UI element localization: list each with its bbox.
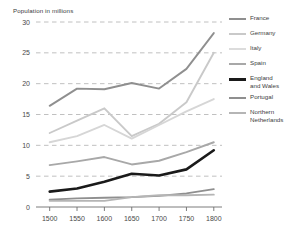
y-tick-label: 10 — [22, 142, 30, 149]
x-tick-label: 1650 — [124, 215, 140, 222]
legend-item-label: Spain — [250, 59, 266, 67]
series-line-france — [50, 33, 214, 106]
legend-item-label: Italy — [250, 44, 261, 52]
x-tick-label: 1550 — [69, 215, 85, 222]
y-tick-label: 0 — [26, 204, 30, 211]
legend-swatch-icon — [229, 48, 246, 50]
legend-item-italy[interactable]: Italy — [229, 44, 288, 55]
y-tick-label: 20 — [22, 80, 30, 87]
y-tick-label: 5 — [26, 173, 30, 180]
legend-swatch-icon — [229, 63, 246, 65]
y-tick-label: 25 — [22, 49, 30, 56]
legend-item-spain[interactable]: Spain — [229, 59, 288, 70]
legend-item-england-and-wales[interactable]: England and Wales — [229, 74, 288, 89]
legend-item-northern-netherlands[interactable]: Northern Netherlands — [229, 108, 288, 123]
legend-swatch-icon — [229, 112, 246, 114]
legend-swatch-icon — [229, 18, 246, 20]
population-line-chart: Population in millions 05101520253015001… — [0, 0, 288, 247]
x-tick-label: 1750 — [179, 215, 195, 222]
x-tick-label: 1800 — [206, 215, 222, 222]
series-line-england-and-wales — [50, 150, 214, 191]
x-tick-label: 1600 — [97, 215, 113, 222]
legend-item-france[interactable]: France — [229, 14, 288, 25]
legend-item-label: France — [250, 14, 269, 22]
x-tick-label: 1500 — [42, 215, 58, 222]
legend-item-germany[interactable]: Germany — [229, 29, 288, 40]
legend-swatch-icon — [229, 78, 246, 81]
legend-swatch-icon — [229, 97, 246, 99]
legend-item-label: England and Wales — [250, 74, 279, 89]
chart-legend: FranceGermanyItalySpainEngland and Wales… — [229, 14, 288, 127]
x-tick-label: 1700 — [151, 215, 167, 222]
legend-item-portugal[interactable]: Portugal — [229, 93, 288, 104]
legend-item-label: Germany — [250, 29, 275, 37]
y-tick-label: 30 — [22, 19, 30, 26]
y-tick-label: 15 — [22, 111, 30, 118]
legend-item-label: Portugal — [250, 93, 273, 101]
legend-item-label: Northern Netherlands — [250, 108, 283, 123]
legend-swatch-icon — [229, 33, 246, 35]
